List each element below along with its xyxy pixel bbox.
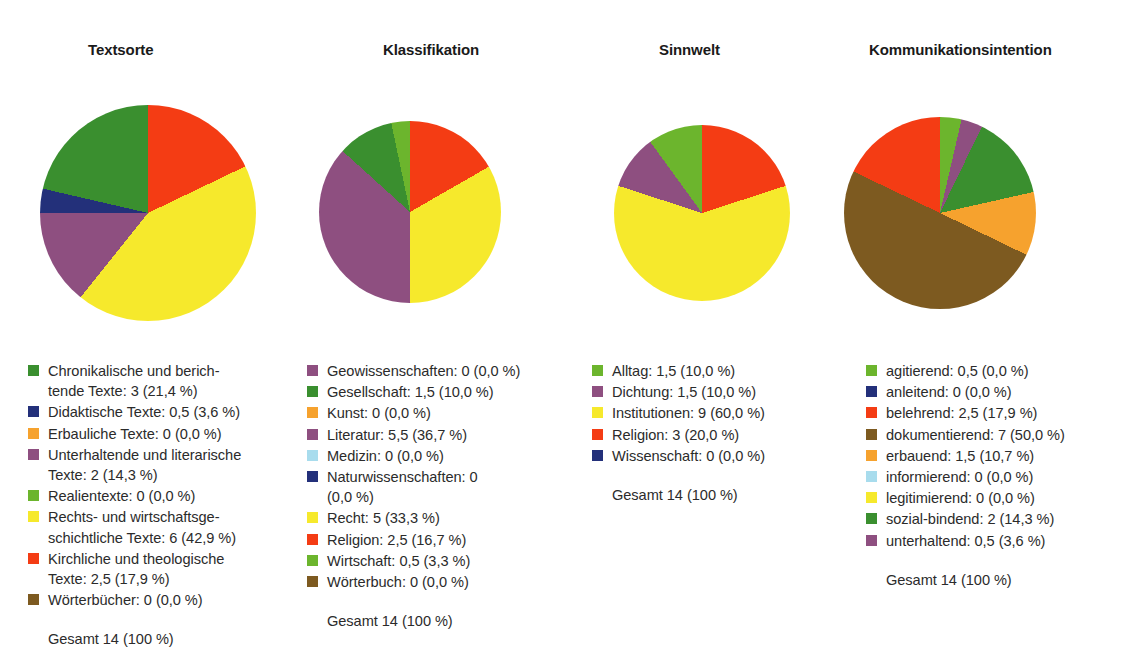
legend-item-label: Wissenschaft: 0 (0,0 %) [612,446,765,466]
legend-item[interactable]: belehrend: 2,5 (17,9 %) [866,403,1125,423]
legend-item-label: agitierend: 0,5 (0,0 %) [886,361,1028,381]
legend-swatch-icon [592,429,603,440]
legend-swatch-icon [866,535,877,546]
pie-klassifikation [319,121,501,303]
legend-total-label: Gesamt 14 (100 %) [612,485,862,505]
pie-textsorte [40,105,256,321]
legend-item[interactable]: legitimierend: 0 (0,0 %) [866,488,1125,508]
legend-item[interactable]: anleitend: 0 (0,0 %) [866,382,1125,402]
legend-swatch-icon [866,513,877,524]
legend-item[interactable]: Naturwissenschaften: 0 (0,0 %) [307,467,579,507]
legend-klassifikation: Geowissenschaften: 0 (0,0 %)Gesellschaft… [307,361,579,631]
legend-item-label: anleitend: 0 (0,0 %) [886,382,1012,402]
legend-swatch-icon [592,407,603,418]
legend-item-label: Geowissenschaften: 0 (0,0 %) [327,361,520,381]
legend-item[interactable]: sozial-bindend: 2 (14,3 %) [866,509,1125,529]
legend-item[interactable]: Rechts- und wirtschaftsge- schichtliche … [28,507,290,547]
legend-item-label: unterhaltend: 0,5 (3,6 %) [886,531,1045,551]
legend-item[interactable]: informierend: 0 (0,0 %) [866,467,1125,487]
legend-item[interactable]: Religion: 3 (20,0 %) [592,425,862,445]
legend-swatch-icon [866,365,877,376]
legend-item[interactable]: Gesellschaft: 1,5 (10,0 %) [307,382,579,402]
chart-panel-sinnwelt: Sinnwelt Alltag: 1,5 (10,0 %)Dichtung: 1… [580,0,866,613]
legend-item[interactable]: Chronikalische und berich- tende Texte: … [28,361,290,401]
legend-item-label: Medizin: 0 (0,0 %) [327,446,444,466]
legend-item-label: erbauend: 1,5 (10,7 %) [886,446,1034,466]
page-title-textsorte: Textsorte [88,41,154,58]
legend-item[interactable]: Literatur: 5,5 (36,7 %) [307,425,579,445]
legend-swatch-icon [28,594,39,605]
legend-swatch-icon [866,492,877,503]
legend-swatch-icon [307,555,318,566]
legend-item-label: Religion: 2,5 (16,7 %) [327,530,466,550]
chart-panel-klassifikation: Klassifikation Geowissenschaften: 0 (0,0… [290,0,580,613]
pie-sinnwelt [614,125,790,301]
legend-item[interactable]: Unterhaltende und literarische Texte: 2 … [28,445,290,485]
legend-item-label: Wörterbuch: 0 (0,0 %) [327,572,469,592]
legend-swatch-icon [307,471,318,482]
legend-item[interactable]: Wirtschaft: 0,5 (3,3 %) [307,551,579,571]
legend-total-label: Gesamt 14 (100 %) [48,629,290,649]
pie-kommunikationsintention [844,117,1036,309]
legend-item-label: belehrend: 2,5 (17,9 %) [886,403,1037,423]
legend-item[interactable]: Kirchliche und theologische Texte: 2,5 (… [28,549,290,589]
legend-item-label: Religion: 3 (20,0 %) [612,425,739,445]
chart-panel-textsorte: Textsorte Chronikalische und berich- ten… [0,0,290,613]
legend-item[interactable]: Realientexte: 0 (0,0 %) [28,486,290,506]
legend-item[interactable]: Wörterbuch: 0 (0,0 %) [307,572,579,592]
legend-item[interactable]: Wissenschaft: 0 (0,0 %) [592,446,862,466]
legend-sinnwelt: Alltag: 1,5 (10,0 %)Dichtung: 1,5 (10,0 … [592,361,862,505]
legend-item[interactable]: erbauend: 1,5 (10,7 %) [866,446,1125,466]
legend-swatch-icon [28,449,39,460]
legend-item-label: informierend: 0 (0,0 %) [886,467,1033,487]
legend-item-label: Realientexte: 0 (0,0 %) [48,486,195,506]
legend-item-label: sozial-bindend: 2 (14,3 %) [886,509,1054,529]
legend-item-label: Kirchliche und theologische Texte: 2,5 (… [48,549,224,589]
legend-item[interactable]: Religion: 2,5 (16,7 %) [307,530,579,550]
legend-item[interactable]: Erbauliche Texte: 0 (0,0 %) [28,424,290,444]
legend-swatch-icon [866,386,877,397]
legend-item-label: Dichtung: 1,5 (10,0 %) [612,382,756,402]
legend-swatch-icon [307,407,318,418]
legend-swatch-icon [28,490,39,501]
legend-item[interactable]: Dichtung: 1,5 (10,0 %) [592,382,862,402]
legend-item-label: Recht: 5 (33,3 %) [327,508,440,528]
legend-item[interactable]: Medizin: 0 (0,0 %) [307,446,579,466]
legend-swatch-icon [866,429,877,440]
legend-item-label: Literatur: 5,5 (36,7 %) [327,425,467,445]
legend-swatch-icon [28,406,39,417]
legend-item[interactable]: Kunst: 0 (0,0 %) [307,403,579,423]
legend-swatch-icon [866,407,877,418]
legend-item[interactable]: Wörterbücher: 0 (0,0 %) [28,590,290,610]
legend-swatch-icon [307,429,318,440]
legend-item[interactable]: Recht: 5 (33,3 %) [307,508,579,528]
page-title-kommunikationsintention: Kommunikationsintention [869,41,1052,58]
legend-swatch-icon [307,576,318,587]
legend-item-label: Naturwissenschaften: 0 (0,0 %) [327,467,478,507]
legend-item[interactable]: Institutionen: 9 (60,0 %) [592,403,862,423]
legend-total-label: Gesamt 14 (100 %) [886,570,1125,590]
legend-item[interactable]: Alltag: 1,5 (10,0 %) [592,361,862,381]
legend-item-label: Rechts- und wirtschaftsge- schichtliche … [48,507,236,547]
legend-swatch-icon [307,386,318,397]
legend-item-label: Gesellschaft: 1,5 (10,0 %) [327,382,494,402]
legend-item-label: Institutionen: 9 (60,0 %) [612,403,765,423]
legend-swatch-icon [592,386,603,397]
legend-item[interactable]: agitierend: 0,5 (0,0 %) [866,361,1125,381]
legend-item-label: Wirtschaft: 0,5 (3,3 %) [327,551,470,571]
legend-item[interactable]: dokumentierend: 7 (50,0 %) [866,425,1125,445]
legend-item-label: Kunst: 0 (0,0 %) [327,403,431,423]
legend-item-label: Didaktische Texte: 0,5 (3,6 %) [48,402,240,422]
legend-item[interactable]: unterhaltend: 0,5 (3,6 %) [866,531,1125,551]
legend-item[interactable]: Geowissenschaften: 0 (0,0 %) [307,361,579,381]
legend-item-label: legitimierend: 0 (0,0 %) [886,488,1035,508]
legend-item-label: dokumentierend: 7 (50,0 %) [886,425,1065,445]
chart-panel-kommunikationsintention: Kommunikationsintention agitierend: 0,5 … [866,0,1125,613]
legend-swatch-icon [592,450,603,461]
legend-swatch-icon [307,365,318,376]
legend-item[interactable]: Didaktische Texte: 0,5 (3,6 %) [28,402,290,422]
legend-swatch-icon [307,450,318,461]
legend-swatch-icon [592,365,603,376]
legend-swatch-icon [28,365,39,376]
